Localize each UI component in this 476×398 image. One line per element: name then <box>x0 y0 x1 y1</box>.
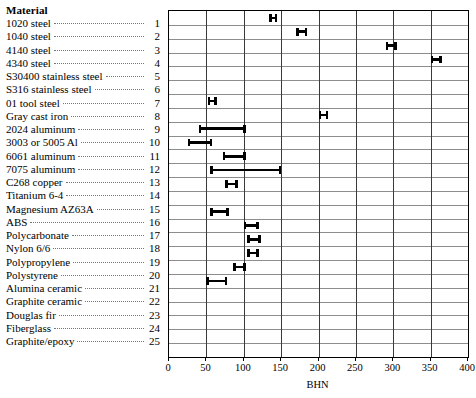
material-legend-item-label: Fiberglass <box>6 322 51 335</box>
x-axis-tick <box>430 357 431 361</box>
range-bar-cap-low <box>296 28 299 36</box>
x-axis-tick-label: 250 <box>347 362 363 374</box>
material-legend-item-index: 3 <box>147 44 160 57</box>
dot-leader <box>53 248 144 249</box>
dot-leader <box>54 23 144 24</box>
range-bar-cap-high <box>256 249 259 257</box>
gridline-vertical <box>244 11 245 357</box>
range-bar-cap-high <box>226 208 229 216</box>
material-legend-item-label: S30400 stainless steel <box>6 70 103 83</box>
range-bar-cap-high <box>275 14 278 22</box>
x-axis-tick-label: 400 <box>459 362 475 374</box>
material-legend-item-label: Magnesium AZ63A <box>6 203 94 216</box>
material-legend-item: 4140 steel3 <box>4 44 160 57</box>
gridline-vertical <box>281 11 282 357</box>
material-legend-item-index: 4 <box>147 57 160 70</box>
material-legend-item-label: Polycarbonate <box>6 229 69 242</box>
material-legend-item-label: Gray cast iron <box>6 110 68 123</box>
range-bar <box>225 183 238 186</box>
material-legend-panel: Material 1020 steel11040 steel24140 stee… <box>4 4 160 356</box>
range-bar <box>431 58 442 61</box>
range-bar-cap-low <box>247 235 250 243</box>
material-legend-item-index: 22 <box>147 295 160 308</box>
material-legend-item-index: 12 <box>147 163 160 176</box>
x-axis-tick-label: 200 <box>310 362 326 374</box>
material-legend-item-index: 19 <box>147 256 160 269</box>
material-legend-item: 1020 steel1 <box>4 17 160 30</box>
material-legend-item: ABS16 <box>4 216 160 229</box>
range-bar-cap-high <box>279 166 282 174</box>
material-legend-item-index: 8 <box>147 110 160 123</box>
dot-leader <box>78 129 144 130</box>
material-legend-item-index: 1 <box>147 17 160 30</box>
material-legend-item: Douglas fir23 <box>4 309 160 322</box>
dot-leader <box>30 222 144 223</box>
material-legend-item-label: 4140 steel <box>6 44 51 57</box>
range-bar-cap-low <box>199 125 202 133</box>
range-bar <box>233 266 246 269</box>
range-bar <box>223 155 246 158</box>
dot-leader <box>97 209 144 210</box>
range-bar-cap-low <box>269 14 272 22</box>
range-bar <box>188 141 213 144</box>
range-bar-cap-low <box>431 56 434 64</box>
range-bar-cap-high <box>235 180 238 188</box>
material-legend-item-index: 21 <box>147 282 160 295</box>
dot-leader <box>59 315 144 316</box>
range-bar-cap-high <box>439 56 442 64</box>
material-legend-item-index: 17 <box>147 229 160 242</box>
range-bar-cap-high <box>243 263 246 271</box>
material-legend-item-label: Douglas fir <box>6 309 56 322</box>
dot-leader <box>54 50 144 51</box>
dot-leader <box>54 36 144 37</box>
x-axis-tick-label: 300 <box>384 362 400 374</box>
range-bar-cap-high <box>394 42 397 50</box>
material-legend-item: Graphite/epoxy25 <box>4 335 160 348</box>
dot-leader <box>61 275 144 276</box>
material-legend-item-index: 10 <box>147 136 160 149</box>
dot-leader <box>66 195 144 196</box>
x-axis-tick <box>392 357 393 361</box>
range-bar-cap-low <box>208 97 211 105</box>
material-legend-item-label: Nylon 6/6 <box>6 242 50 255</box>
dot-leader <box>54 328 144 329</box>
range-bar <box>206 280 227 283</box>
material-legend-item-label: S316 stainless steel <box>6 83 92 96</box>
range-bar-cap-high <box>225 277 228 285</box>
material-legend-item-label: 3003 or 5005 Al <box>6 136 78 149</box>
range-bar <box>296 30 307 33</box>
range-bar <box>208 100 217 103</box>
range-bar <box>247 238 260 241</box>
material-legend-heading: Material <box>4 4 160 17</box>
range-bar <box>269 17 277 20</box>
x-axis-tick <box>205 357 206 361</box>
x-axis-tick <box>280 357 281 361</box>
range-bar <box>386 44 397 47</box>
material-legend-list: 1020 steel11040 steel24140 steel34340 st… <box>4 17 160 348</box>
x-axis-tick <box>467 357 468 361</box>
range-bar-cap-high <box>214 97 217 105</box>
dot-leader <box>73 262 144 263</box>
material-legend-item: 4340 steel4 <box>4 57 160 70</box>
gridline-vertical <box>393 11 394 357</box>
dot-leader <box>71 116 144 117</box>
material-legend-item-index: 2 <box>147 30 160 43</box>
material-legend-item-index: 6 <box>147 83 160 96</box>
material-legend-item-label: Titanium 6-4 <box>6 189 63 202</box>
gridline-vertical <box>319 11 320 357</box>
material-legend-item-index: 11 <box>147 150 160 163</box>
material-legend-item: Titanium 6-414 <box>4 189 160 202</box>
range-bar <box>210 210 229 213</box>
range-bar-cap-high <box>210 139 213 147</box>
x-axis-tick <box>243 357 244 361</box>
material-legend-item-label: 4340 steel <box>6 57 51 70</box>
material-legend-item: Alumina ceramic21 <box>4 282 160 295</box>
dot-leader <box>77 341 144 342</box>
range-bar-cap-high <box>243 152 246 160</box>
material-legend-item: Polypropylene19 <box>4 256 160 269</box>
material-legend-item: Gray cast iron8 <box>4 110 160 123</box>
material-legend-item: 1040 steel2 <box>4 30 160 43</box>
gridline-vertical <box>356 11 357 357</box>
material-legend-item-label: 1040 steel <box>6 30 51 43</box>
material-legend-item-label: ABS <box>6 216 27 229</box>
